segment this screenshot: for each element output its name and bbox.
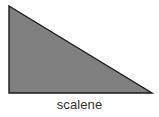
shape-caption-label: scalene: [0, 97, 159, 112]
scalene-triangle-shape: [9, 6, 152, 93]
scalene-triangle-figure: scalene: [0, 0, 159, 117]
